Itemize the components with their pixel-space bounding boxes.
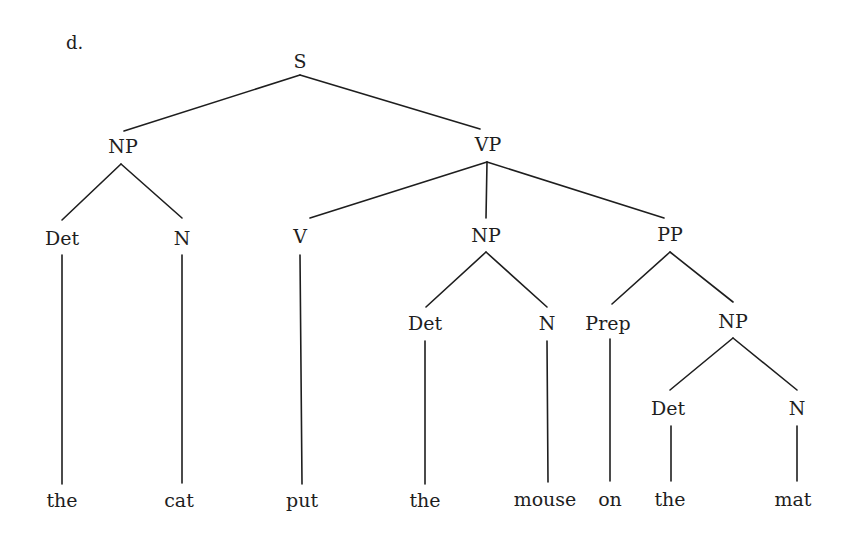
node-np-object: NP	[471, 226, 500, 245]
node-det-3: Det	[651, 399, 685, 418]
leaf-word: cat	[164, 491, 194, 510]
node-np-pp-object: NP	[718, 312, 747, 331]
node-n-2: N	[539, 314, 556, 333]
leaf-word: on	[598, 490, 622, 509]
leaf-word: the	[46, 491, 77, 510]
example-label: d.	[66, 32, 83, 53]
leaf-word: the	[409, 491, 440, 510]
node-vp: VP	[475, 135, 502, 154]
node-det-1: Det	[45, 229, 79, 248]
leaf-word: the	[654, 490, 685, 509]
node-prep: Prep	[585, 314, 630, 333]
tree-edges	[0, 0, 849, 536]
leaf-word: put	[286, 491, 318, 510]
leaf-word: mat	[775, 490, 812, 509]
node-n-1: N	[174, 229, 191, 248]
node-v: V	[293, 227, 307, 246]
syntax-tree-diagram: d. S NP VP Det N V NP PP Det N Prep NP D…	[0, 0, 849, 536]
node-pp: PP	[657, 225, 683, 244]
node-det-2: Det	[408, 314, 442, 333]
node-s: S	[293, 52, 306, 71]
leaf-word: mouse	[514, 490, 577, 509]
node-n-3: N	[789, 399, 806, 418]
node-np-subject: NP	[108, 137, 137, 156]
